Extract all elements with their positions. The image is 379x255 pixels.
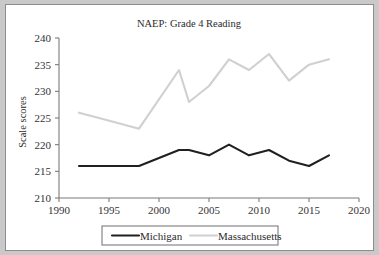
x-tick-label: 2000 [148, 204, 171, 216]
x-axis-ticks: 1990199520002005201020152020 [48, 198, 371, 216]
chart-title: NAEP: Grade 4 Reading [137, 18, 242, 29]
y-axis-title: Scale scores [17, 96, 28, 148]
chart-legend: Michigan Massachusetts [102, 226, 282, 245]
y-tick-label: 235 [35, 59, 52, 71]
x-tick-label: 2010 [248, 204, 271, 216]
series-line-michigan [79, 145, 329, 166]
x-tick-label: 1995 [98, 204, 121, 216]
y-tick-label: 225 [35, 112, 52, 124]
legend-label-michigan: Michigan [140, 230, 183, 242]
y-tick-label: 210 [35, 192, 52, 204]
data-series-group [79, 54, 329, 166]
x-tick-label: 2005 [198, 204, 221, 216]
y-tick-label: 230 [35, 85, 52, 97]
naep-grade4-reading-line-chart: NAEP: Grade 4 Reading Scale scores 21021… [6, 5, 373, 250]
x-tick-label: 2015 [298, 204, 321, 216]
y-tick-label: 215 [35, 165, 52, 177]
x-tick-label: 1990 [48, 204, 71, 216]
y-axis-ticks: 210215220225230235240 [35, 32, 60, 204]
series-line-massachusetts [79, 54, 329, 129]
x-tick-label: 2020 [348, 204, 371, 216]
y-tick-label: 240 [35, 32, 52, 44]
legend-label-massachusetts: Massachusetts [218, 230, 282, 242]
y-tick-label: 220 [35, 139, 52, 151]
figure-panel: NAEP: Grade 4 Reading Scale scores 21021… [5, 4, 374, 251]
